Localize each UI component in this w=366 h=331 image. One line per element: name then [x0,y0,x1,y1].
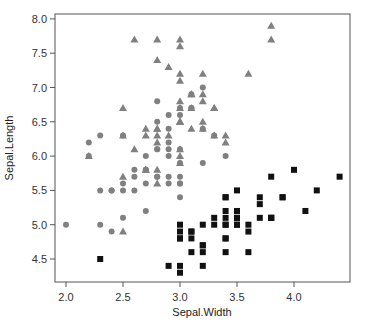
point-setosa [188,235,194,241]
point-virginica [176,70,184,77]
point-versicolor [109,229,115,235]
point-setosa [245,249,251,255]
point-setosa [291,167,297,173]
x-tick-label: 3.5 [229,291,244,303]
point-setosa [268,174,274,180]
point-virginica [176,42,184,49]
point-setosa [314,187,320,193]
point-setosa [257,201,263,207]
point-virginica [165,63,173,70]
point-setosa [257,215,263,221]
x-tick-label: 2.0 [58,291,73,303]
point-setosa [245,229,251,235]
point-versicolor [131,167,137,173]
point-versicolor [86,139,92,145]
point-versicolor [177,112,183,118]
point-setosa [337,174,343,180]
point-virginica [222,132,230,139]
point-setosa [223,222,229,228]
point-versicolor [97,187,103,193]
point-setosa [177,235,183,241]
point-virginica [130,35,138,42]
point-virginica [165,132,173,139]
point-versicolor [120,187,126,193]
point-setosa [177,222,183,228]
point-virginica [153,166,161,173]
point-versicolor [166,181,172,187]
point-versicolor [166,174,172,180]
point-setosa [211,215,217,221]
point-virginica [153,132,161,139]
point-setosa [223,194,229,200]
point-versicolor [143,208,149,214]
point-virginica [222,138,230,145]
point-virginica [199,70,207,77]
point-virginica [210,104,218,111]
point-virginica [176,97,184,104]
point-virginica [119,173,127,180]
point-setosa [177,270,183,276]
point-versicolor [143,181,149,187]
point-versicolor [143,153,149,159]
point-versicolor [154,146,160,152]
point-versicolor [177,181,183,187]
point-virginica [153,35,161,42]
y-tick-label: 5.0 [32,219,47,231]
point-setosa [234,215,240,221]
point-setosa [200,249,206,255]
point-versicolor [166,146,172,152]
y-tick-label: 5.5 [32,184,47,196]
point-setosa [177,229,183,235]
y-tick-label: 6.5 [32,116,47,128]
point-setosa [268,215,274,221]
point-versicolor [120,181,126,187]
point-versicolor [166,126,172,132]
point-setosa [223,249,229,255]
point-setosa [200,222,206,228]
point-versicolor [166,139,172,145]
point-virginica [176,77,184,84]
x-tick-label: 4.0 [286,291,301,303]
point-versicolor [177,174,183,180]
point-setosa [223,215,229,221]
point-setosa [257,194,263,200]
point-virginica [199,90,207,97]
point-versicolor [154,98,160,104]
point-setosa [234,187,240,193]
y-tick-label: 4.5 [32,253,47,265]
point-versicolor [166,153,172,159]
point-versicolor [97,133,103,139]
point-virginica [199,97,207,104]
y-tick-label: 7.5 [32,47,47,59]
point-setosa [302,208,308,214]
point-setosa [177,263,183,269]
point-virginica [199,118,207,125]
point-versicolor [154,119,160,125]
point-virginica [153,56,161,63]
point-versicolor [109,187,115,193]
y-axis: 4.55.05.56.06.57.07.58.0 [32,13,55,265]
point-virginica [119,228,127,235]
point-versicolor [63,222,69,228]
point-virginica [130,145,138,152]
point-setosa [234,222,240,228]
y-tick-label: 7.0 [32,82,47,94]
point-virginica [244,70,252,77]
point-virginica [176,152,184,159]
point-virginica [187,125,195,132]
point-virginica [153,138,161,145]
plot-frame [55,14,350,282]
point-versicolor [177,194,183,200]
point-setosa [280,194,286,200]
x-tick-label: 2.5 [115,291,130,303]
point-versicolor [131,174,137,180]
point-virginica [176,35,184,42]
point-setosa [166,263,172,269]
point-virginica [142,132,150,139]
point-virginica [119,104,127,111]
point-setosa [223,208,229,214]
point-versicolor [120,215,126,221]
point-setosa [223,235,229,241]
point-versicolor [154,174,160,180]
y-tick-label: 8.0 [32,13,47,25]
